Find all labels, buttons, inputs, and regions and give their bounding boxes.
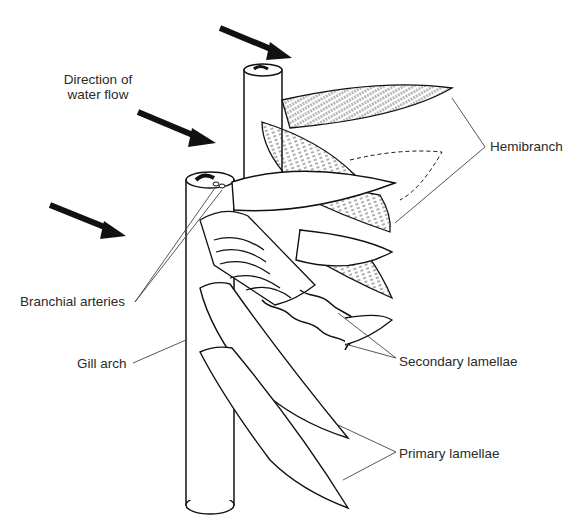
- arrow-top-icon: [220, 28, 292, 60]
- label-direction-line1: Direction of: [48, 72, 148, 87]
- label-hemibranch: Hemibranch: [490, 139, 563, 154]
- label-direction-line2: water flow: [48, 87, 148, 102]
- label-branchial-arteries: Branchial arteries: [20, 294, 125, 309]
- label-gill-arch: Gill arch: [77, 356, 127, 371]
- label-secondary-lamellae: Secondary lamellae: [399, 354, 518, 369]
- label-direction-of-water-flow: Direction of water flow: [48, 72, 148, 102]
- label-primary-lamellae: Primary lamellae: [399, 446, 500, 461]
- arrow-bottom-icon: [50, 205, 126, 239]
- arrow-middle-icon: [138, 112, 216, 147]
